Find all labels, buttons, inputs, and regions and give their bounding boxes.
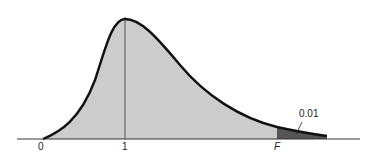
tick-label-1: 1 bbox=[122, 141, 128, 152]
tick-label-f: F bbox=[274, 141, 280, 152]
tail-area-label: 0.01 bbox=[299, 108, 318, 119]
tick-label-0: 0 bbox=[38, 141, 44, 152]
f-distribution-chart bbox=[0, 0, 373, 158]
body-area bbox=[43, 19, 277, 139]
